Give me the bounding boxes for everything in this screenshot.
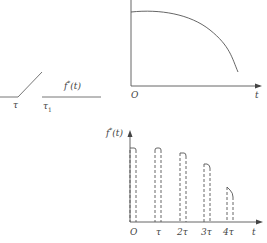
bottom-y-arrow-icon: [128, 130, 133, 137]
top-x-arrow-icon: [255, 84, 262, 89]
bottom-x-label: t: [252, 228, 256, 237]
diagram-canvas: [0, 0, 267, 243]
bottom-plot-axes: [130, 136, 260, 222]
bottom-origin-label: O: [130, 228, 137, 237]
tau1-label: τ1: [43, 102, 52, 113]
tick-4tau: 4τ: [223, 228, 234, 237]
tick-3tau: 3τ: [201, 228, 212, 237]
fstar-label: f*(t): [64, 80, 81, 91]
fstar-arg: (t): [70, 81, 81, 91]
tau-label: τ: [13, 101, 18, 110]
top-origin-label: O: [131, 91, 138, 100]
top-plot-axes: [131, 0, 260, 86]
ramp-fragment: [0, 72, 101, 97]
bottom-x-arrow-icon: [256, 220, 263, 225]
pulses: [130, 148, 233, 222]
tick-tau: τ: [156, 228, 161, 237]
tick-2tau: 2τ: [177, 228, 188, 237]
bottom-y-label: f*(t): [106, 127, 123, 138]
tau1-subscript: 1: [48, 106, 52, 113]
bottom-y-arg: (t): [112, 128, 123, 138]
top-x-label: t: [255, 91, 259, 100]
top-curve: [131, 11, 238, 72]
